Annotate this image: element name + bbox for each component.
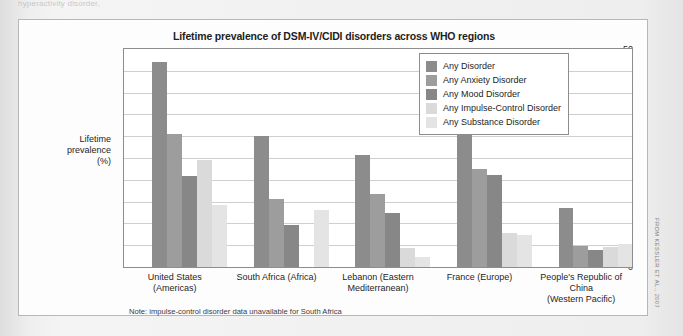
bar-group-bars <box>143 50 245 268</box>
legend-item[interactable]: Any Substance Disorder <box>426 115 561 129</box>
bar[interactable] <box>517 235 532 268</box>
legend-item-label: Any Disorder <box>443 61 495 71</box>
bar[interactable] <box>502 233 517 268</box>
chart-title: Lifetime prevalence of DSM-IV/CIDI disor… <box>19 30 649 42</box>
bar[interactable] <box>472 169 487 268</box>
legend-item-label: Any Impulse-Control Disorder <box>443 103 561 113</box>
bar[interactable] <box>400 248 415 268</box>
bar[interactable] <box>314 210 329 268</box>
figure-credit: FROM KESSLER ET AL., 2007 <box>651 218 665 308</box>
x-axis-category-label-line: Lebanon (Eastern <box>328 272 428 283</box>
bar[interactable] <box>197 160 212 268</box>
bar[interactable] <box>385 213 400 268</box>
legend-item[interactable]: Any Anxiety Disorder <box>426 73 561 87</box>
bar[interactable] <box>588 250 603 268</box>
y-axis-label-line-2: prevalence <box>43 145 111 156</box>
y-axis-label-line-1: Lifetime <box>43 134 111 145</box>
legend-item-label: Any Substance Disorder <box>443 117 540 127</box>
chart-legend: Any DisorderAny Anxiety DisorderAny Mood… <box>419 53 569 135</box>
x-axis-category-label: South Africa (Africa) <box>226 272 328 305</box>
bar[interactable] <box>370 194 385 268</box>
bar[interactable] <box>618 244 633 268</box>
x-axis-category-label-line: France (Europe) <box>430 272 530 283</box>
bar[interactable] <box>603 247 618 268</box>
y-axis-label-line-3: (%) <box>43 156 111 167</box>
x-axis-category-label: People's Republic of China(Western Pacif… <box>530 272 632 305</box>
legend-item-label: Any Mood Disorder <box>443 89 520 99</box>
bar[interactable] <box>573 246 588 269</box>
x-axis-category-label: United States (Americas) <box>124 272 226 305</box>
bar[interactable] <box>355 155 370 268</box>
bar[interactable] <box>284 225 299 268</box>
figure-credit-text: FROM KESSLER ET AL., 2007 <box>654 218 660 308</box>
x-axis-category-label-line: (Western Pacific) <box>531 294 631 305</box>
legend-item[interactable]: Any Disorder <box>426 59 561 73</box>
legend-swatch-icon <box>426 117 437 128</box>
chart-note: Note: impulse-control disorder data unav… <box>129 307 342 316</box>
bar[interactable] <box>212 205 227 268</box>
legend-swatch-icon <box>426 75 437 86</box>
x-axis-category-label-line: South Africa (Africa) <box>227 272 327 283</box>
bar-group <box>245 50 347 268</box>
page-text-fragment: hyperactivity disorder, <box>18 0 100 8</box>
legend-item[interactable]: Any Impulse-Control Disorder <box>426 101 561 115</box>
bar[interactable] <box>152 62 167 268</box>
legend-swatch-icon <box>426 61 437 72</box>
bar[interactable] <box>254 136 269 268</box>
legend-swatch-icon <box>426 103 437 114</box>
y-axis-label: Lifetime prevalence (%) <box>43 134 111 167</box>
bar[interactable] <box>182 176 197 268</box>
legend-swatch-icon <box>426 89 437 100</box>
x-axis-category-label-line: Mediterranean) <box>328 283 428 294</box>
x-axis-category-label-line: People's Republic of China <box>531 272 631 294</box>
bar-group-bars <box>245 50 347 268</box>
x-axis-category-label: France (Europe) <box>429 272 531 305</box>
x-axis-category-label-line: United States (Americas) <box>125 272 225 294</box>
bar[interactable] <box>415 257 430 268</box>
x-axis-category-label: Lebanon (EasternMediterranean) <box>327 272 429 305</box>
bar[interactable] <box>559 208 574 268</box>
bar[interactable] <box>167 134 182 268</box>
bar[interactable] <box>269 199 284 268</box>
legend-item-label: Any Anxiety Disorder <box>443 75 527 85</box>
x-axis-category-labels: United States (Americas)South Africa (Af… <box>124 272 632 305</box>
bar-group <box>143 50 245 268</box>
bar[interactable] <box>487 175 502 268</box>
legend-item[interactable]: Any Mood Disorder <box>426 87 561 101</box>
figure-panel: Lifetime prevalence of DSM-IV/CIDI disor… <box>18 19 648 316</box>
